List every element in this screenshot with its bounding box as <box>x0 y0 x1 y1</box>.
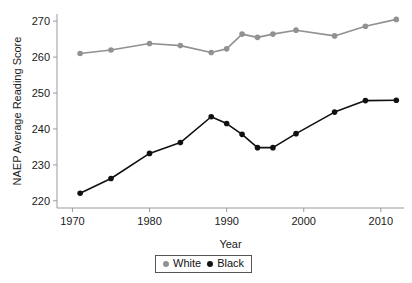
legend-label: White <box>173 258 201 269</box>
chart-plot-area: 220230240250260270 19701980199020002010 … <box>0 0 412 283</box>
x-tick-label: 1980 <box>137 215 161 227</box>
data-point-white <box>332 33 338 39</box>
data-point-white <box>293 27 299 33</box>
data-point-white <box>270 31 276 37</box>
y-tick-label: 250 <box>32 87 50 99</box>
y-tick-label: 230 <box>32 159 50 171</box>
series-line-black <box>80 100 396 193</box>
x-tick-label: 1970 <box>60 215 84 227</box>
data-point-white <box>208 50 214 56</box>
y-tick-label: 270 <box>32 15 50 27</box>
data-point-white <box>224 46 230 52</box>
x-axis: 19701980199020002010 <box>57 208 404 227</box>
data-point-black <box>108 176 114 182</box>
data-point-white <box>77 51 83 57</box>
x-tick-label: 2010 <box>369 215 393 227</box>
series-line-white <box>80 19 396 53</box>
data-point-black <box>224 121 230 127</box>
x-tick-label: 1990 <box>214 215 238 227</box>
data-point-white <box>393 17 399 23</box>
data-point-black <box>332 109 338 115</box>
data-point-black <box>363 98 369 104</box>
data-point-white <box>178 43 184 49</box>
data-point-black <box>270 145 276 151</box>
data-point-black <box>255 145 261 151</box>
data-point-black <box>178 140 184 146</box>
y-tick-label: 240 <box>32 123 50 135</box>
data-point-black <box>208 114 214 120</box>
data-point-white <box>108 47 114 53</box>
data-point-white <box>147 41 153 47</box>
chart-legend: WhiteBlack <box>155 255 252 273</box>
y-axis: 220230240250260270 <box>32 14 57 208</box>
y-tick-label: 220 <box>32 195 50 207</box>
legend-marker-icon <box>207 261 213 267</box>
data-point-black <box>239 132 245 138</box>
data-point-black <box>393 97 399 103</box>
x-axis-title: Year <box>219 238 242 250</box>
y-axis-title: NAEP Average Reading Score <box>11 37 23 186</box>
naep-reading-score-chart: 220230240250260270 19701980199020002010 … <box>0 0 412 283</box>
y-tick-label: 260 <box>32 51 50 63</box>
data-point-white <box>363 23 369 29</box>
data-point-white <box>239 31 245 37</box>
data-point-black <box>293 131 299 137</box>
data-point-black <box>147 151 153 157</box>
data-point-white <box>255 35 261 41</box>
data-point-black <box>77 190 83 196</box>
legend-label: Black <box>217 258 244 269</box>
legend-marker-icon <box>163 261 169 267</box>
series-layer <box>77 17 399 196</box>
x-tick-label: 2000 <box>292 215 316 227</box>
legend-entry-white: White <box>163 258 201 269</box>
legend-entry-black: Black <box>207 258 244 269</box>
